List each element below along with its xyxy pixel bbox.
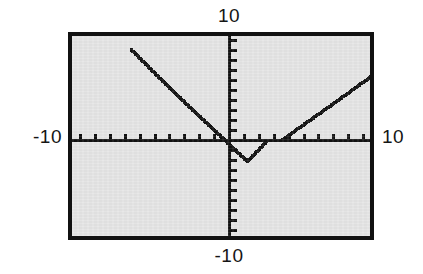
graph-plot-canvas	[72, 36, 370, 236]
y-max-label: 10	[206, 6, 252, 25]
graphing-calculator-screen: 10 -10 10 -10	[0, 0, 423, 274]
plot-viewport	[68, 32, 374, 240]
x-min-label: -10	[10, 127, 62, 146]
x-max-label: 10	[382, 127, 422, 146]
y-min-label: -10	[202, 246, 256, 265]
